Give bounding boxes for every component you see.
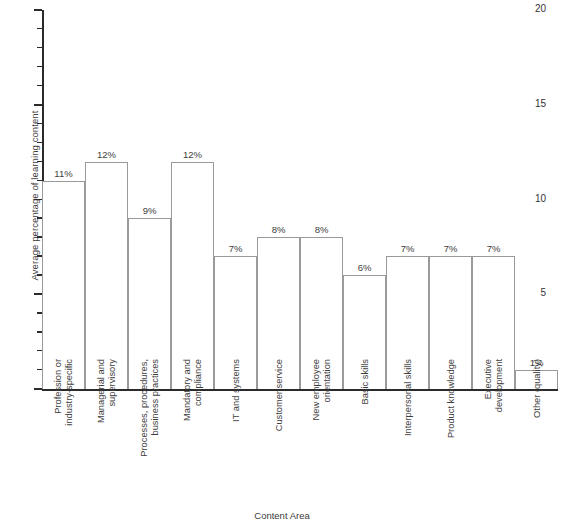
bar-value-label: 11%	[42, 169, 85, 179]
plot-area: 05101520 11%12%9%12%7%8%8%6%7%7%7%1%	[42, 10, 558, 389]
x-axis-category-labels: Profession or industry-specificManageria…	[42, 393, 558, 505]
x-category-label: Other (quality)	[515, 393, 558, 505]
bar-value-label: 7%	[214, 244, 257, 254]
y-tick-major	[34, 293, 42, 295]
y-tick-major	[34, 104, 42, 106]
bar-value-label: 8%	[300, 225, 343, 235]
bar-value-label: 6%	[343, 263, 386, 273]
bar-chart: Average percentage of learning content 0…	[0, 0, 564, 529]
y-tick-major	[34, 9, 42, 11]
bar-value-label: 7%	[472, 244, 515, 254]
bar-series: 11%12%9%12%7%8%8%6%7%7%7%1%	[42, 10, 558, 389]
y-axis-title: Average percentage of learning content	[29, 76, 40, 316]
y-tick-major	[34, 199, 42, 201]
x-category-text: Other (quality)	[531, 359, 542, 471]
bar-value-label: 8%	[257, 225, 300, 235]
bar-value-label: 12%	[85, 150, 128, 160]
x-axis-line	[42, 389, 558, 391]
bar-value-label: 7%	[429, 244, 472, 254]
x-axis-title: Content Area	[0, 510, 564, 521]
bar-value-label: 12%	[171, 150, 214, 160]
bar	[171, 162, 214, 389]
bar	[85, 162, 128, 389]
bar-value-label: 7%	[386, 244, 429, 254]
bar-value-label: 9%	[128, 206, 171, 216]
y-tick-major	[34, 388, 42, 390]
bar	[42, 181, 85, 389]
